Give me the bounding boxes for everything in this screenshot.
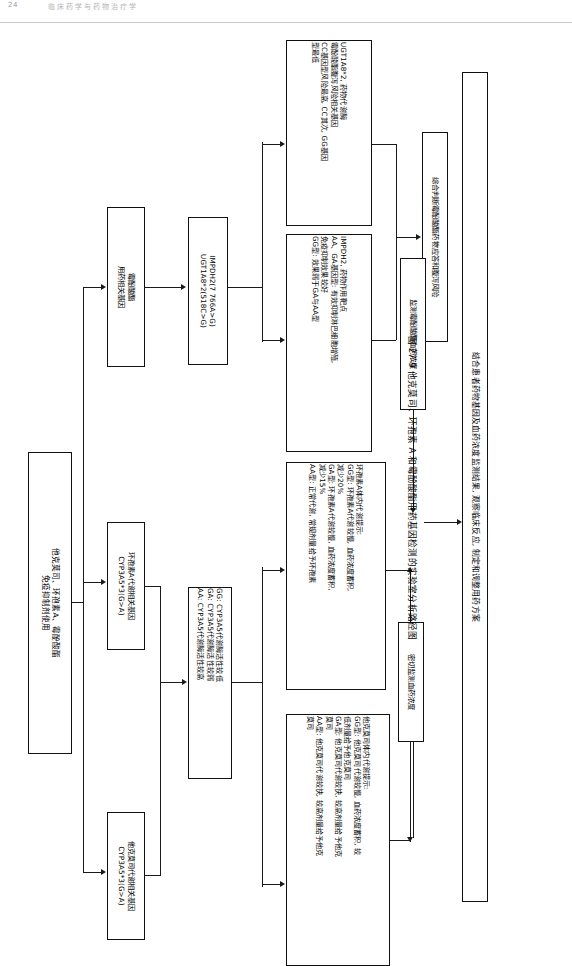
node-cyp3a5-activity: GG: CYP3A5代谢酶活性较低 GA: CYP3A5代谢酶活性较弱 AA: … — [188, 587, 232, 779]
node-mpa-gene: 霉酚酸酯 用药相关基因 — [107, 207, 145, 367]
connector-spine-up-mpa — [83, 287, 84, 517]
node-mpa-loci-label: IMPDH2(7 766A>G) UGT1A8*2(518C>G) — [199, 218, 218, 364]
node-final-plan: 结合患者药物基因及血药浓度监测结果, 观察临床反应, 制定和调整用药方案 — [462, 72, 488, 902]
connector-activity-split — [262, 567, 263, 887]
connector-genes-merge — [160, 586, 161, 876]
node-impdh2-interpretation: IMPDH2, 药物作用靶点 AA、GA基因型: 有效抑制淋巴细胞增殖, 免疫抑… — [286, 234, 372, 452]
connector-root-spine — [83, 512, 84, 872]
node-csa-interpretation: 环孢素A体内代谢提示: GG型: 环孢素A代谢较慢, 血药浓度蓄积, 减少20%… — [286, 462, 386, 690]
connector-to-ugt1a8 — [262, 144, 280, 145]
node-mpa-gene-label: 霉酚酸酯 用药相关基因 — [116, 208, 136, 366]
connector-merge-to-activity — [160, 682, 182, 683]
arrow-to-activity — [182, 679, 187, 685]
connector-to-impdh2 — [262, 340, 280, 341]
node-root-label: 他克莫司、环孢素A、霉酚酸酯 免疫抑制剂使用 — [40, 453, 60, 753]
arrow-to-mpa-loci — [181, 284, 186, 290]
connector-to-tac-interp — [262, 884, 280, 885]
node-csa-gene: 环孢素A代谢相关基因 CYP3A5*3(G>A) — [107, 522, 145, 650]
connector-to-csa-interp — [262, 570, 280, 571]
connector-activity-out — [232, 682, 263, 683]
node-tdm-tac-csa-label: 密切监测血药浓度 — [406, 623, 416, 741]
connector-to-csa-gene — [83, 582, 101, 583]
arrow-to-csa-gene — [101, 579, 106, 585]
connector-impdh2-out — [372, 340, 396, 341]
page-running-header: 24 临床药学与药物治疗学 — [0, 0, 572, 23]
node-judge-mpa-label: 综合判断霉酚酸酯药物应答和腹泻风险 — [430, 134, 440, 340]
connector-loci-split — [262, 142, 263, 342]
node-root: 他克莫司、环孢素A、霉酚酸酯 免疫抑制剂使用 — [28, 452, 72, 754]
connector-mpa-merge — [396, 144, 397, 340]
figure-caption: 图 27-9 他克莫司、环孢素 A 和霉酚酸酯用药基因检测的实验室分析路径图 — [408, 336, 420, 641]
connector-to-tac-gene — [83, 872, 101, 873]
connector-mpa-gene-out — [145, 287, 181, 288]
running-title: 临床药学与药物治疗学 — [48, 1, 138, 11]
node-cyp3a5-activity-label: GG: CYP3A5代谢酶活性较低 GA: CYP3A5代谢酶活性较弱 AA: … — [196, 588, 224, 778]
node-csa-interpretation-label: 环孢素A体内代谢提示: GG型: 环孢素A代谢较慢, 血药浓度蓄积, 减少20%… — [308, 464, 364, 688]
node-final-plan-label: 结合患者药物基因及血药浓度监测结果, 观察临床反应, 制定和调整用药方案 — [470, 75, 480, 899]
connector-loci-out — [228, 287, 263, 288]
arrow-to-mpa-gene — [101, 284, 106, 290]
node-ugt1a8-interpretation: UGT1A8*2, 药物代谢酶 霉酚酸酯腹泻风险相关基因 CC基因型风险最高, … — [286, 40, 372, 226]
connector-tac-gene-out — [145, 875, 161, 876]
node-ugt1a8-interpretation-label: UGT1A8*2, 药物代谢酶 霉酚酸酯腹泻风险相关基因 CC基因型风险最高, … — [310, 42, 347, 224]
connector-csa-gene-out — [145, 586, 161, 587]
connector-ugt1a8-out — [372, 144, 396, 145]
node-tac-interpretation: 他克莫司体内代谢提示: GG型: 他克莫司代谢较慢, 血药浓度蓄积, 较 低剂量… — [286, 714, 390, 966]
node-impdh2-interpretation-label: IMPDH2, 药物作用靶点 AA、GA基因型: 有效抑制淋巴细胞增殖, 免疫抑… — [310, 236, 347, 450]
connector-to-judge-mpa — [396, 237, 416, 238]
arrow-to-judge-mpa — [416, 234, 421, 240]
arrow-to-tac-interp — [280, 881, 285, 887]
node-tac-gene-label: 他克莫司代谢相关基因 CYP3A5*3(G>A) — [117, 813, 136, 939]
arrow-to-impdh2 — [280, 337, 285, 343]
arrow-to-csa-interp — [280, 567, 285, 573]
connector-to-mpa-gene — [83, 287, 101, 288]
arrow-to-tac-gene — [101, 869, 106, 875]
connector-to-final — [413, 742, 414, 838]
node-mpa-loci: IMPDH2(7 766A>G) UGT1A8*2(518C>G) — [188, 217, 228, 365]
node-tac-interpretation-label: 他克莫司体内代谢提示: GG型: 他克莫司代谢较慢, 血药浓度蓄积, 较 低剂量… — [305, 716, 371, 964]
arrow-to-ugt1a8 — [280, 141, 285, 147]
flowchart-canvas: 他克莫司、环孢素A、霉酚酸酯 免疫抑制剂使用 他克莫司代谢相关基因 CYP3A5… — [0, 22, 572, 954]
node-tac-gene: 他克莫司代谢相关基因 CYP3A5*3(G>A) — [107, 812, 145, 940]
page-number: 24 — [8, 1, 18, 9]
arrow-to-final — [457, 519, 462, 525]
node-csa-gene-label: 环孢素A代谢相关基因 CYP3A5*3(G>A) — [117, 523, 136, 649]
connector-spine-to-final — [424, 522, 460, 523]
